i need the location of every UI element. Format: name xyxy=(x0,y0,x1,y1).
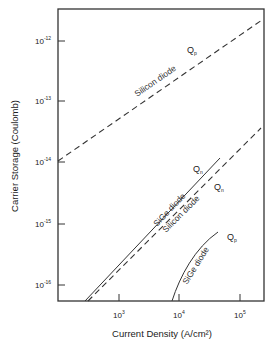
qp-label-sige: Qp xyxy=(227,232,237,243)
plot-frame xyxy=(58,9,264,301)
qp-label-top: Qp xyxy=(187,45,197,56)
chart: 10-12 10-13 10-14 10-15 10-16 103 104 10… xyxy=(0,0,274,347)
x-tick-label: 103 xyxy=(113,309,125,320)
y-axis: 10-12 10-13 10-14 10-15 10-16 xyxy=(35,35,65,290)
qn-label-silicon: Qn xyxy=(214,182,224,193)
x-axis-title: Current Density (A/cm²) xyxy=(112,328,212,339)
y-tick-label: 10-15 xyxy=(35,218,51,229)
series-silicon-qp-line xyxy=(58,20,262,161)
y-tick-label: 10-12 xyxy=(35,35,51,46)
x-tick-label: 105 xyxy=(234,309,246,320)
x-tick-label: 104 xyxy=(173,309,185,320)
y-axis-title: Carrier Storage (Coulomb) xyxy=(9,100,20,212)
y-tick-label: 10-14 xyxy=(35,156,51,167)
series-sige-qn-line xyxy=(85,158,220,301)
x-axis: 103 104 105 xyxy=(113,294,246,320)
y-tick-label: 10-13 xyxy=(35,95,51,106)
silicon-diode-qp-label: Silicon diode xyxy=(132,63,178,99)
sige-diode-qp-label: SiGe diode xyxy=(180,245,211,286)
qn-label-sige: Qn xyxy=(193,164,203,175)
y-tick-label: 10-16 xyxy=(35,279,51,290)
